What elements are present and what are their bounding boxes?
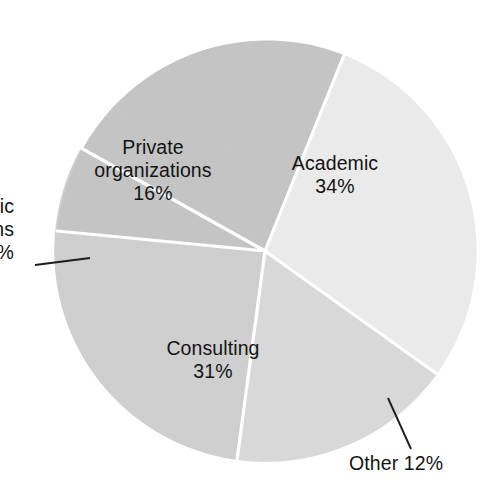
pie-chart-figure: Academic 34% Private organizations 16% C… xyxy=(0,0,494,497)
pie-chart-graphic xyxy=(0,0,494,497)
